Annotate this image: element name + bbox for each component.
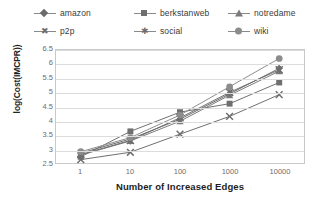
- series-line: [81, 58, 279, 151]
- x-tick-label: 1000: [222, 167, 239, 176]
- square-marker-icon: [276, 80, 282, 86]
- y-tick-label: 4: [28, 116, 53, 125]
- legend-line-amazon: [34, 13, 56, 14]
- y-tick-label: 3.5: [28, 130, 53, 139]
- legend-line-notredame: [228, 13, 250, 14]
- diamond-marker-icon: [40, 9, 48, 17]
- circle-marker-icon: [77, 148, 84, 155]
- gridline: [56, 136, 304, 137]
- gridline: [56, 151, 304, 152]
- y-tick-label: 6.5: [28, 44, 53, 53]
- y-tick-label: 3: [28, 145, 53, 154]
- plot-area: [55, 49, 305, 164]
- triangle-marker-icon: [235, 10, 243, 17]
- y-axis-title: log(Cost(IMCPR)): [12, 31, 22, 127]
- y-tick-label: 5: [28, 87, 53, 96]
- star-marker-icon: ✱: [141, 28, 148, 35]
- y-axis-ticks: 2.533.544.555.566.5: [28, 43, 53, 170]
- circle-marker-icon: [235, 28, 242, 35]
- legend-item-social[interactable]: ✱ social: [134, 24, 182, 38]
- gridline: [56, 108, 304, 109]
- legend-label-p2p: p2p: [60, 26, 74, 36]
- cross-marker-icon: [226, 113, 233, 120]
- legend-line-p2p: ✖: [34, 31, 56, 32]
- y-tick-label: 4.5: [28, 102, 53, 111]
- legend-item-berkstanweb[interactable]: berkstanweb: [134, 6, 209, 20]
- legend-line-berkstanweb: [134, 13, 156, 14]
- series-p2p: [77, 91, 282, 163]
- x-tick-label: 10000: [270, 167, 291, 176]
- legend-label-notredame: notredame: [254, 8, 296, 18]
- legend-item-amazon[interactable]: amazon: [34, 6, 91, 20]
- circle-marker-icon: [177, 112, 184, 119]
- square-marker-icon: [227, 101, 233, 107]
- legend-line-social: ✱: [134, 31, 156, 32]
- legend-line-wiki: [228, 31, 250, 32]
- legend-label-amazon: amazon: [60, 8, 91, 18]
- chart-legend: amazon berkstanweb notredame ✖ p2p ✱ soc…: [34, 6, 310, 40]
- legend-label-wiki: wiki: [254, 26, 269, 36]
- x-tick-label: 100: [174, 167, 187, 176]
- gridline: [56, 64, 304, 65]
- gridline: [56, 93, 304, 94]
- gridline: [56, 50, 304, 51]
- gridline: [56, 79, 304, 80]
- circle-marker-icon: [127, 134, 134, 141]
- legend-item-p2p[interactable]: ✖ p2p: [34, 24, 74, 38]
- series-layer: [56, 50, 304, 163]
- x-tick-label: 10: [126, 167, 134, 176]
- x-axis-title: Number of Increased Edges: [55, 181, 305, 192]
- square-marker-icon: [141, 10, 147, 16]
- legend-label-berkstanweb: berkstanweb: [160, 8, 209, 18]
- circle-marker-icon: [276, 55, 283, 62]
- legend-label-social: social: [160, 26, 182, 36]
- series-wiki: [77, 55, 282, 155]
- square-marker-icon: [127, 128, 133, 134]
- y-tick-label: 5.5: [28, 73, 53, 82]
- x-axis-ticks: 110100100010000: [55, 167, 305, 179]
- circle-marker-icon: [226, 83, 233, 90]
- cross-marker-icon: ✖: [41, 28, 48, 35]
- x-tick-label: 1: [78, 167, 82, 176]
- y-tick-label: 6: [28, 58, 53, 67]
- chart-container: amazon berkstanweb notredame ✖ p2p ✱ soc…: [0, 0, 316, 203]
- y-tick-label: 2.5: [28, 159, 53, 168]
- legend-item-notredame[interactable]: notredame: [228, 6, 296, 20]
- gridline: [56, 122, 304, 123]
- legend-item-wiki[interactable]: wiki: [228, 24, 269, 38]
